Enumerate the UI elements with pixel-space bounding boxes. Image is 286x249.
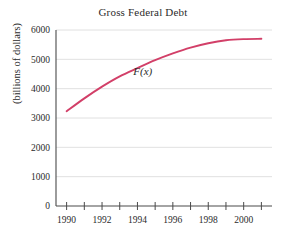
y-tick-label: 1000 [31,172,50,182]
chart-figure: Gross Federal Debt (billions of dollars)… [0,0,286,249]
y-tick-label: 4000 [31,84,50,94]
y-tick-label: 0 [45,201,50,211]
data-series-group [67,39,262,111]
curve-label: F(x) [132,65,152,78]
plot-area: 0100020003000400050006000 19901992199419… [0,0,286,249]
y-tick-labels-group: 0100020003000400050006000 [31,25,50,211]
y-tick-label: 2000 [31,143,50,153]
x-tick-label: 1994 [128,215,147,225]
x-tick-label: 1998 [199,215,218,225]
gridlines-group [56,30,272,177]
series-line [67,39,262,111]
x-tick-label: 1992 [93,215,112,225]
x-tick-label: 1996 [163,215,182,225]
y-tick-label: 3000 [31,113,50,123]
x-tick-labels-group: 199019921994199619982000 [57,215,253,225]
annotations-group: F(x) [132,65,152,78]
x-tick-label: 1990 [57,215,76,225]
x-tick-label: 2000 [234,215,253,225]
y-tick-label: 6000 [31,25,50,35]
y-tick-label: 5000 [31,55,50,65]
